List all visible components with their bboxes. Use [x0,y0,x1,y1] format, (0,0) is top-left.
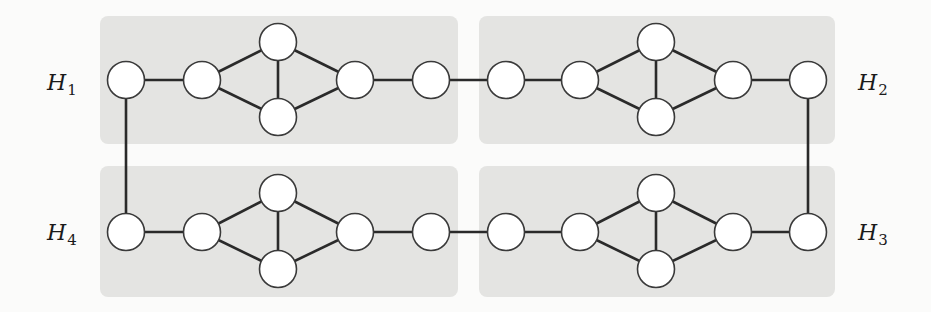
node-h4-3 [260,251,297,288]
node-h1-5 [413,62,450,99]
group-label-h2: H2 [857,70,888,99]
group-label-h1: H1 [46,70,77,99]
node-h3-2 [638,175,675,212]
node-h4-5 [413,214,450,251]
node-h2-2 [638,24,675,61]
node-h3-5 [488,214,525,251]
node-h3-0 [790,214,827,251]
node-h1-1 [184,62,221,99]
node-h2-5 [790,62,827,99]
node-h4-4 [337,214,374,251]
node-h4-0 [108,214,145,251]
node-h2-4 [715,62,752,99]
node-h2-0 [488,62,525,99]
node-h3-4 [562,214,599,251]
group-boxes [100,16,835,297]
node-h3-1 [715,214,752,251]
node-h1-0 [108,62,145,99]
graph-diagram: H1H2H3H4 [0,0,931,312]
group-label-h4: H4 [46,220,77,249]
node-h1-3 [260,99,297,136]
node-h2-3 [638,99,675,136]
node-h4-2 [260,175,297,212]
node-h1-4 [337,62,374,99]
node-h2-1 [562,62,599,99]
node-h3-3 [638,251,675,288]
group-label-h3: H3 [857,220,888,249]
node-h1-2 [260,24,297,61]
node-h4-1 [184,214,221,251]
